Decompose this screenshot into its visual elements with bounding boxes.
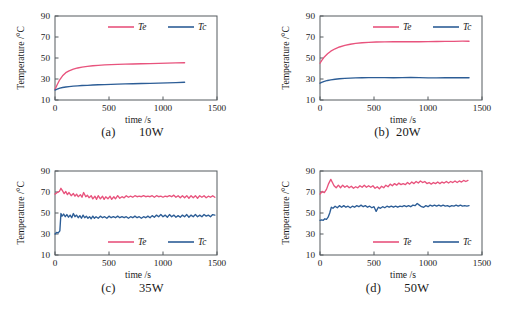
plot-area-b: 0500100015001030507090time /sTemperature… <box>265 0 530 128</box>
plot-area-c: 0500100015001030507090time /sTemperature… <box>0 155 265 283</box>
y-tick-label: 30 <box>306 74 316 84</box>
y-axis-title: Temperature /°C <box>15 181 26 245</box>
y-tick-label: 30 <box>306 229 316 239</box>
plot-area-a: 0500100015001030507090time /sTemperature… <box>0 0 265 128</box>
plot-frame <box>55 16 217 100</box>
series-line-Te <box>320 179 468 194</box>
y-tick-label: 50 <box>306 208 316 218</box>
y-tick-label: 30 <box>41 229 51 239</box>
series-line-Tc <box>55 214 215 234</box>
x-tick-label: 0 <box>318 258 323 268</box>
y-tick-label: 90 <box>41 166 51 176</box>
y-tick-label: 70 <box>41 187 51 197</box>
panel-caption-b: (b) 20W <box>265 125 530 140</box>
y-axis-title: Temperature /°C <box>15 26 26 90</box>
x-tick-label: 1000 <box>154 103 173 113</box>
series-line-Te <box>320 41 469 63</box>
x-axis-title: time /s <box>390 114 416 125</box>
legend-label-Tc: Tc <box>198 237 207 247</box>
chart-panel-c: 0500100015001030507090time /sTemperature… <box>0 155 265 310</box>
legend-label-Tc: Tc <box>198 22 207 32</box>
y-tick-label: 10 <box>306 250 316 260</box>
legend-label-Te: Te <box>138 237 147 247</box>
y-tick-label: 90 <box>41 11 51 21</box>
x-tick-label: 0 <box>318 103 323 113</box>
series-line-Te <box>55 188 215 199</box>
x-axis-title: time /s <box>390 269 416 280</box>
x-tick-label: 1000 <box>419 258 438 268</box>
y-axis-title: Temperature /°C <box>280 26 291 90</box>
x-tick-label: 500 <box>102 103 116 113</box>
y-tick-label: 90 <box>306 11 316 21</box>
y-tick-label: 10 <box>41 95 51 105</box>
x-tick-label: 500 <box>102 258 116 268</box>
panel-caption-c: (c) 35W <box>0 281 265 296</box>
y-tick-label: 70 <box>306 32 316 42</box>
y-tick-label: 70 <box>306 187 316 197</box>
x-tick-label: 500 <box>367 103 381 113</box>
series-line-Tc <box>320 204 469 221</box>
y-tick-label: 10 <box>41 250 51 260</box>
y-tick-label: 50 <box>306 53 316 63</box>
y-tick-label: 90 <box>306 166 316 176</box>
legend-label-Te: Te <box>403 237 412 247</box>
legend-label-Tc: Tc <box>463 237 472 247</box>
plot-area-d: 0500100015001030507090time /sTemperature… <box>265 155 530 283</box>
series-line-Tc <box>55 82 185 90</box>
panel-caption-d: (d) 50W <box>265 281 530 296</box>
x-axis-title: time /s <box>125 114 151 125</box>
series-line-Tc <box>320 78 469 84</box>
y-tick-label: 10 <box>306 95 316 105</box>
legend-label-Te: Te <box>403 22 412 32</box>
x-tick-label: 0 <box>53 258 58 268</box>
y-tick-label: 50 <box>41 208 51 218</box>
y-axis-title: Temperature /°C <box>280 181 291 245</box>
y-tick-label: 30 <box>41 74 51 84</box>
y-tick-label: 70 <box>41 32 51 42</box>
plot-frame <box>320 16 482 100</box>
x-tick-label: 1000 <box>419 103 438 113</box>
x-tick-label: 1000 <box>154 258 173 268</box>
x-tick-label: 1500 <box>473 258 492 268</box>
panel-caption-a: (a) 10W <box>0 125 265 140</box>
chart-panel-d: 0500100015001030507090time /sTemperature… <box>265 155 530 310</box>
x-tick-label: 500 <box>367 258 381 268</box>
legend-label-Te: Te <box>138 22 147 32</box>
x-tick-label: 1500 <box>208 258 227 268</box>
figure-root: 0500100015001030507090time /sTemperature… <box>0 0 530 311</box>
x-axis-title: time /s <box>125 269 151 280</box>
x-tick-label: 0 <box>53 103 58 113</box>
x-tick-label: 1500 <box>208 103 227 113</box>
y-tick-label: 50 <box>41 53 51 63</box>
chart-panel-b: 0500100015001030507090time /sTemperature… <box>265 0 530 155</box>
chart-panel-a: 0500100015001030507090time /sTemperature… <box>0 0 265 155</box>
x-tick-label: 1500 <box>473 103 492 113</box>
legend-label-Tc: Tc <box>463 22 472 32</box>
